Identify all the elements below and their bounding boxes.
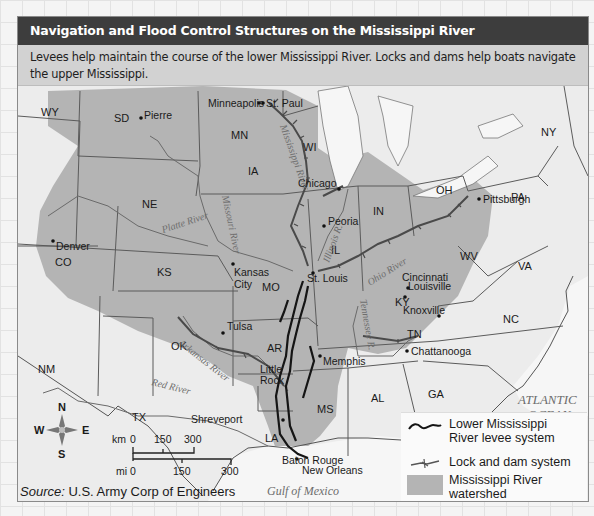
legend-watershed-line1: Mississippi River — [449, 473, 542, 487]
city-label-louisville: Louisville — [408, 280, 451, 292]
scale-mi-150: 150 — [173, 465, 191, 477]
compass-e: E — [82, 424, 89, 436]
gulf-label: Gulf of Mexico — [267, 484, 339, 498]
city-label-chattanooga: Chattanooga — [411, 345, 471, 357]
state-label-ny: NY — [541, 126, 557, 138]
map-figure: Navigation and Flood Control Structures … — [17, 16, 589, 502]
levee-line-icon — [407, 417, 443, 433]
scale-km-150: 150 — [154, 433, 172, 445]
city-label-st-paul: St. Paul — [266, 97, 303, 109]
legend-item-watershed: Mississippi River watershed — [407, 473, 542, 501]
state-label-ar: AR — [267, 342, 282, 354]
state-label-la: LA — [265, 432, 279, 444]
city-label-shreveport: Shreveport — [191, 413, 242, 425]
legend-levee-line2: River levee system — [449, 431, 555, 445]
city-label-kansas: Kansas — [234, 266, 269, 278]
legend-watershed-line2: watershed — [449, 487, 542, 501]
state-label-ga: GA — [428, 388, 445, 400]
scale-mi-0: 0 — [130, 465, 136, 477]
city-label-city: City — [234, 278, 253, 290]
state-label-ms: MS — [317, 403, 334, 415]
map-legend: Lower Mississippi River levee system Loc… — [401, 412, 587, 502]
state-label-tx: TX — [132, 411, 147, 423]
state-label-tn: TN — [407, 328, 422, 340]
scale-km-300: 300 — [184, 433, 202, 445]
compass-n: N — [58, 401, 66, 413]
state-label-mo: MO — [262, 281, 280, 293]
compass-w: W — [34, 424, 45, 436]
city-label-pittsburgh: Pittsburgh — [483, 193, 530, 205]
state-label-sd: SD — [114, 112, 129, 124]
state-label-wi: WI — [303, 141, 316, 153]
figure-caption: Levees help maintain the course of the l… — [18, 45, 588, 86]
state-label-oh: OH — [436, 184, 453, 196]
watershed-swatch-icon — [407, 475, 443, 495]
state-label-wv: WV — [460, 250, 478, 262]
state-label-ia: IA — [248, 165, 259, 177]
state-label-va: VA — [518, 260, 533, 272]
figure-title: Navigation and Flood Control Structures … — [18, 17, 588, 45]
scale-km-label: km — [112, 433, 126, 445]
state-label-mn: MN — [231, 129, 248, 141]
state-label-wy: WY — [41, 106, 59, 118]
lock-dam-line-icon — [407, 455, 443, 471]
state-label-nm: NM — [38, 363, 55, 375]
legend-levee-line1: Lower Mississippi — [449, 417, 555, 431]
state-label-in: IN — [373, 205, 384, 217]
source-credit: Source: U.S. Army Corp of Engineers — [20, 484, 235, 499]
source-text: U.S. Army Corp of Engineers — [65, 484, 236, 499]
city-label-new-orleans: New Orleans — [302, 464, 363, 476]
city-label-denver: Denver — [56, 240, 90, 252]
scale-mi-300: 300 — [221, 465, 239, 477]
legend-item-lock-dam: Lock and dam system — [407, 455, 571, 471]
state-label-nc: NC — [503, 313, 519, 325]
city-label-tulsa: Tulsa — [227, 320, 252, 332]
legend-lock-dam-label: Lock and dam system — [449, 455, 571, 469]
city-label-minneapolis: Minneapolis — [208, 97, 264, 109]
scale-mi-label: mi — [116, 465, 127, 477]
city-label-st-louis: St. Louis — [307, 272, 348, 284]
compass-s: S — [58, 448, 65, 460]
ocean-label-atlantic: ATLANTIC — [517, 392, 577, 407]
scale-km-0: 0 — [130, 433, 136, 445]
state-label-al: AL — [371, 392, 384, 404]
state-label-ks: KS — [157, 266, 172, 278]
state-label-ne: NE — [142, 198, 157, 210]
city-label-memphis: Memphis — [323, 355, 366, 367]
city-label-knoxville: Knoxville — [403, 304, 445, 316]
legend-item-levee: Lower Mississippi River levee system — [407, 417, 555, 445]
city-label-pierre: Pierre — [144, 109, 172, 121]
mississippi-map: WY SD MN WI NY NE IA PA OH IN IL CO KS M… — [18, 86, 588, 501]
city-label-rock: Rock — [260, 374, 285, 386]
state-label-co: CO — [55, 256, 72, 268]
source-prefix: Source: — [20, 484, 65, 499]
